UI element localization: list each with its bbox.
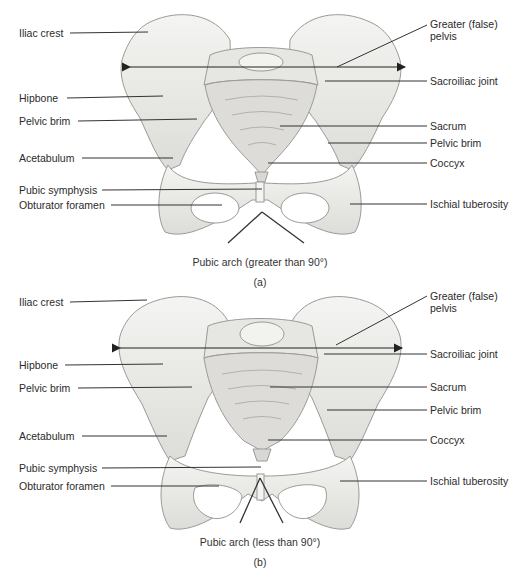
label-ischial-tuberosity: Ischial tuberosity [430,475,508,487]
label-pelvic-brim-right: Pelvic brim [430,137,481,149]
label-pubic-symphysis: Pubic symphysis [19,462,97,474]
label-obturator-foramen: Obturator foramen [19,199,105,211]
caption-pubic-arch-b: Pubic arch (less than 90°) [0,536,520,548]
coccyx [253,449,271,461]
panel-label-b: (b) [0,556,520,568]
label-acetabulum: Acetabulum [19,152,74,164]
caption-pubic-arch-a: Pubic arch (greater than 90°) [0,256,520,268]
coccyx [255,172,268,182]
pubic-symphysis [256,182,264,202]
label-pubic-symphysis: Pubic symphysis [19,184,97,196]
label-hipbone: Hipbone [19,92,58,104]
label-pelvic-brim-left: Pelvic brim [19,115,70,127]
label-greater-false-pelvis-line2: pelvis [430,302,457,314]
label-sacrum: Sacrum [430,120,466,132]
label-iliac-crest: Iliac crest [19,27,63,39]
label-sacroiliac-joint: Sacroiliac joint [430,348,498,360]
label-acetabulum: Acetabulum [19,430,74,442]
label-greater-false-pelvis: Greater (false) [430,18,498,30]
panel-b-male-pelvis: Iliac crest Hipbone Pelvic brim Acetabul… [0,286,520,573]
label-iliac-crest: Iliac crest [19,296,63,308]
label-coccyx: Coccyx [430,434,464,446]
panel-a-female-pelvis: Iliac crest Hipbone Pelvic brim Acetabul… [0,0,520,286]
label-coccyx: Coccyx [430,157,464,169]
pelvis-illustration-b [0,286,520,573]
label-sacroiliac-joint: Sacroiliac joint [430,75,498,87]
label-obturator-foramen: Obturator foramen [19,480,105,492]
label-hipbone: Hipbone [19,359,58,371]
label-greater-false-pelvis: Greater (false) [430,290,498,302]
left-obturator-foramen [191,193,239,223]
label-pelvic-brim-left: Pelvic brim [19,382,70,394]
label-sacrum: Sacrum [430,381,466,393]
label-pelvic-brim-right: Pelvic brim [430,404,481,416]
right-obturator-foramen [281,193,329,223]
sacrum [204,353,318,451]
label-greater-false-pelvis-line2: pelvis [430,30,457,42]
label-ischial-tuberosity: Ischial tuberosity [430,198,508,210]
